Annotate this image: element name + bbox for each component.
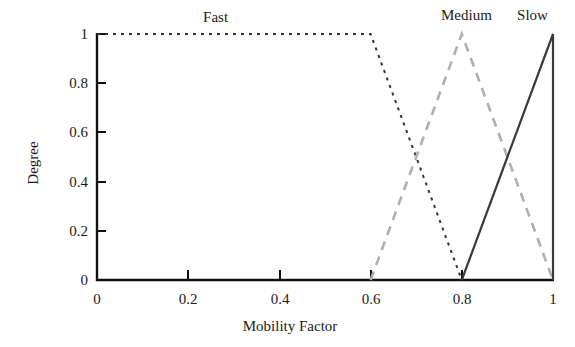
- chart-figure: Fast Medium Slow 1 0.8 0.6 0.4 0.2 0 0 0…: [0, 0, 575, 347]
- series-label-medium: Medium: [441, 7, 492, 24]
- y-tick-label-0-2: 0.2: [50, 223, 88, 240]
- x-tick-label-0-6: 0.6: [362, 291, 381, 308]
- x-tick-label-0-4: 0.4: [271, 291, 290, 308]
- y-axis-ticks: [97, 34, 106, 280]
- y-tick-label-0-4: 0.4: [50, 174, 88, 191]
- x-tick-label-1: 1: [549, 291, 557, 308]
- x-axis-title: Mobility Factor: [243, 318, 338, 335]
- y-axis-title: Degree: [25, 141, 42, 184]
- series-line-medium: [371, 34, 553, 280]
- y-tick-label-1: 1: [50, 26, 88, 43]
- series-label-fast: Fast: [203, 9, 228, 26]
- x-axis-ticks: [97, 270, 553, 280]
- series-label-slow: Slow: [517, 7, 548, 24]
- y-tick-label-0: 0: [50, 272, 88, 289]
- x-tick-label-0-8: 0.8: [453, 291, 472, 308]
- x-tick-label-0-2: 0.2: [179, 291, 198, 308]
- y-tick-label-0-6: 0.6: [50, 124, 88, 141]
- y-tick-label-0-8: 0.8: [50, 75, 88, 92]
- axis-lines: [96, 33, 554, 281]
- x-tick-label-0: 0: [93, 291, 101, 308]
- series-line-fast: [97, 34, 462, 280]
